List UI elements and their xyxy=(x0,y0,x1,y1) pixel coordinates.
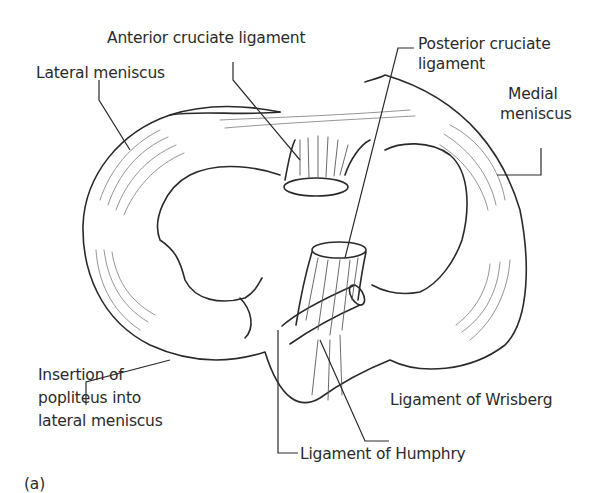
label-ligament-of-humphry: Ligament of Humphry xyxy=(300,445,466,464)
label-medial-meniscus-line2: meniscus xyxy=(500,105,572,124)
lateral-meniscus-inner xyxy=(158,166,280,300)
label-popliteus-line1: Insertion of xyxy=(38,366,124,385)
label-medial-meniscus-line1: Medial xyxy=(508,85,558,104)
medial-meniscus-inner xyxy=(372,144,467,294)
label-popliteus-line3: lateral meniscus xyxy=(38,412,163,431)
panel-label: (a) xyxy=(24,475,45,493)
label-posterior-cruciate-line1: Posterior cruciate xyxy=(418,35,551,54)
label-lateral-meniscus: Lateral meniscus xyxy=(36,64,165,83)
outer-outline xyxy=(83,75,526,403)
leader-anterior-cruciate xyxy=(233,62,300,160)
label-posterior-cruciate-line2: ligament xyxy=(418,55,485,74)
label-popliteus-line2: popliteus into xyxy=(38,389,141,408)
label-anterior-cruciate-ligament: Anterior cruciate ligament xyxy=(107,29,305,48)
leader-humphry xyxy=(278,330,298,453)
label-ligament-of-wrisberg: Ligament of Wrisberg xyxy=(390,391,552,410)
